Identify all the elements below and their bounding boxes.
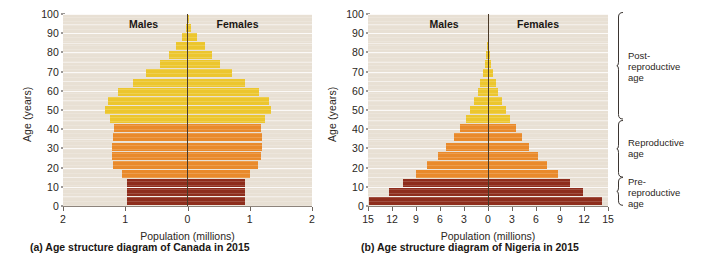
y-tick-label: 20: [352, 162, 364, 174]
panel-caption: (a) Age structure diagram of Canada in 2…: [30, 241, 250, 253]
pyramid-bar: [127, 197, 187, 205]
x-tick-mark: [560, 207, 561, 211]
panel-caption: (b) Age structure diagram of Nigeria in …: [361, 241, 579, 253]
bracket-label-pre-reproductive: Pre- reproductive age: [628, 175, 680, 208]
y-tick-label: 80: [352, 46, 364, 58]
center-divider: [488, 14, 489, 206]
males-label: Males: [429, 18, 458, 30]
pyramid-bar: [169, 51, 188, 59]
pyramid-bar: [110, 115, 187, 123]
y-tick-label: 70: [352, 66, 364, 78]
age-structure-figure: Age (years)0102030405060708090100MalesFe…: [0, 0, 709, 260]
females-label: Females: [517, 18, 559, 30]
pyramid-bar: [188, 179, 246, 187]
panel-nigeria: Age (years)0102030405060708090100MalesFe…: [353, 0, 709, 260]
pyramid-bar: [188, 97, 270, 105]
x-tick-mark: [584, 207, 585, 211]
pyramid-bar: [488, 79, 496, 87]
pyramid-bar: [113, 161, 188, 169]
pyramid-bar: [176, 42, 188, 50]
y-tick-label: 0: [53, 200, 59, 212]
x-tick-label: 0: [485, 213, 491, 225]
pyramid-bar: [488, 124, 516, 132]
pyramid-bar: [488, 60, 491, 68]
bracket-pre-reproductive: [616, 177, 625, 206]
x-tick-mark: [464, 207, 465, 211]
pyramid-bar: [488, 152, 538, 160]
pyramid-bar: [114, 124, 187, 132]
x-tick-mark: [488, 207, 489, 211]
pyramid-bar: [188, 106, 271, 114]
pyramid-bar: [188, 51, 212, 59]
pyramid-bar: [188, 115, 266, 123]
x-tick-label: 9: [413, 213, 419, 225]
pyramid-bar: [113, 133, 188, 141]
pyramid-bar: [188, 124, 261, 132]
y-tick-label: 60: [352, 85, 364, 97]
pyramid-bar: [188, 197, 245, 205]
pyramid-bar: [188, 60, 221, 68]
pyramid-bar: [460, 124, 488, 132]
y-tick-label: 50: [352, 104, 364, 116]
pyramid-bar: [188, 42, 205, 50]
pyramid-bar: [188, 24, 192, 32]
pyramid-bar: [454, 133, 488, 141]
pyramid-bar: [416, 170, 488, 178]
x-tick-label: 2: [309, 213, 315, 225]
plot-area: [368, 14, 608, 206]
y-tick-label: 30: [352, 142, 364, 154]
pyramid-bar: [446, 143, 488, 151]
bracket-reproductive: [616, 120, 625, 178]
pyramid-bar: [188, 88, 260, 96]
y-tick-label: 30: [47, 142, 59, 154]
x-tick-mark: [250, 207, 251, 211]
y-tick-label: 100: [41, 8, 59, 20]
males-label: Males: [129, 18, 158, 30]
y-axis-ticks: 0102030405060708090100: [338, 14, 364, 206]
pyramid-bar: [470, 106, 488, 114]
pyramid-bar: [488, 133, 522, 141]
pyramid-bar: [488, 97, 502, 105]
x-tick-mark: [416, 207, 417, 211]
pyramid-bar: [188, 33, 198, 41]
x-tick-label: 2: [60, 213, 66, 225]
pyramid-bar: [112, 143, 187, 151]
x-tick-mark: [608, 207, 609, 211]
pyramid-bar: [188, 143, 263, 151]
x-tick-mark: [392, 207, 393, 211]
y-axis-ticks: 0102030405060708090100: [33, 14, 59, 206]
pyramid-bar: [188, 170, 251, 178]
x-tick-label: 1: [122, 213, 128, 225]
pyramid-bar: [188, 69, 233, 77]
pyramid-bar: [488, 170, 558, 178]
x-tick-mark: [125, 207, 126, 211]
x-tick-mark: [63, 207, 64, 211]
y-tick-label: 40: [47, 123, 59, 135]
pyramid-bar: [438, 152, 488, 160]
x-tick-label: 12: [386, 213, 398, 225]
panel-canada: Age (years)0102030405060708090100MalesFe…: [0, 0, 356, 260]
pyramid-bar: [488, 188, 583, 196]
x-tick-label: 1: [247, 213, 253, 225]
y-tick-label: 70: [47, 66, 59, 78]
pyramid-bar: [488, 197, 602, 205]
pyramid-bar: [146, 69, 187, 77]
x-tick-label: 6: [437, 213, 443, 225]
x-tick-label: 3: [509, 213, 515, 225]
pyramid-bar: [478, 88, 488, 96]
x-tick-mark: [512, 207, 513, 211]
bracket-label-reproductive: Reproductive age: [628, 137, 684, 159]
pyramid-bar: [488, 179, 570, 187]
x-tick-label: 12: [578, 213, 590, 225]
pyramid-bar: [488, 106, 506, 114]
pyramid-bar: [188, 79, 246, 87]
pyramid-bar: [188, 152, 261, 160]
x-tick-mark: [440, 207, 441, 211]
pyramid-bar: [160, 60, 188, 68]
y-tick-label: 50: [47, 104, 59, 116]
x-tick-mark: [312, 207, 313, 211]
pyramid-bar: [118, 88, 187, 96]
pyramid-bar: [112, 152, 187, 160]
pyramid-bar: [389, 188, 488, 196]
x-tick-label: 6: [533, 213, 539, 225]
